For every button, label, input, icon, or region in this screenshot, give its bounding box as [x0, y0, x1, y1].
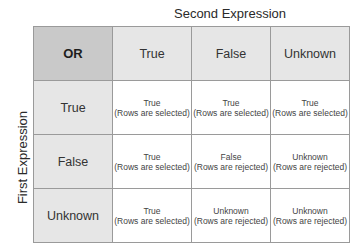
result-note: (Rows are rejected): [192, 216, 270, 226]
result-value: True: [192, 98, 270, 108]
result-cell: False(Rows are rejected): [192, 135, 271, 189]
result-cell: True(Rows are selected): [271, 81, 350, 135]
result-value: Unknown: [271, 152, 349, 162]
first-expression-label: First Expression: [15, 98, 30, 218]
or-truth-table: OR True False Unknown True True(Rows are…: [33, 26, 350, 243]
second-expression-label: Second Expression: [112, 6, 348, 21]
result-note: (Rows are selected): [271, 108, 349, 118]
table-row: False True(Rows are selected) False(Rows…: [34, 135, 350, 189]
result-value: False: [192, 152, 270, 162]
result-cell: True(Rows are selected): [113, 81, 192, 135]
operator-cell: OR: [34, 27, 113, 81]
result-cell: True(Rows are selected): [113, 189, 192, 243]
row-header-unknown: Unknown: [34, 189, 113, 243]
result-value: True: [113, 206, 191, 216]
column-header-unknown: Unknown: [271, 27, 350, 81]
result-note: (Rows are rejected): [271, 216, 349, 226]
result-value: Unknown: [192, 206, 270, 216]
result-value: True: [271, 98, 349, 108]
result-note: (Rows are selected): [113, 162, 191, 172]
result-note: (Rows are rejected): [271, 162, 349, 172]
result-note: (Rows are rejected): [192, 162, 270, 172]
result-cell: Unknown(Rows are rejected): [192, 189, 271, 243]
column-header-false: False: [192, 27, 271, 81]
header-row: OR True False Unknown: [34, 27, 350, 81]
result-value: True: [113, 152, 191, 162]
result-note: (Rows are selected): [192, 108, 270, 118]
table-row: True True(Rows are selected) True(Rows a…: [34, 81, 350, 135]
table-row: Unknown True(Rows are selected) Unknown(…: [34, 189, 350, 243]
result-value: Unknown: [271, 206, 349, 216]
result-cell: Unknown(Rows are rejected): [271, 189, 350, 243]
result-cell: Unknown(Rows are rejected): [271, 135, 350, 189]
row-header-false: False: [34, 135, 113, 189]
column-header-true: True: [113, 27, 192, 81]
result-note: (Rows are selected): [113, 108, 191, 118]
result-value: True: [113, 98, 191, 108]
result-note: (Rows are selected): [113, 216, 191, 226]
result-cell: True(Rows are selected): [192, 81, 271, 135]
result-cell: True(Rows are selected): [113, 135, 192, 189]
row-header-true: True: [34, 81, 113, 135]
